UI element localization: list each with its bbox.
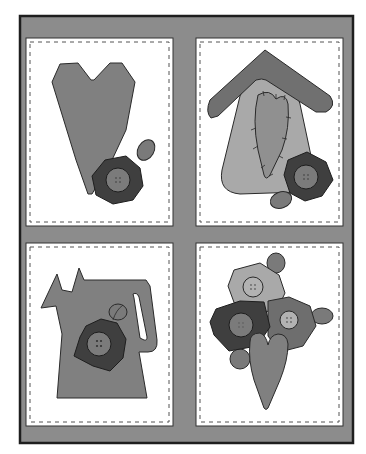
leaf-icon: [109, 304, 127, 320]
quilt-pattern-illustration: [0, 0, 366, 454]
heart-panel: [26, 38, 173, 226]
birdhouse-panel: [196, 38, 343, 226]
watering-can-panel: [26, 243, 173, 426]
button-icon: [294, 165, 318, 189]
button-icon: [243, 277, 263, 297]
bouquet-panel: [196, 243, 343, 426]
leaf-icon: [230, 349, 250, 369]
button-icon: [229, 313, 253, 337]
button-icon: [280, 311, 298, 329]
button-icon: [87, 332, 111, 356]
button-icon: [106, 168, 130, 192]
